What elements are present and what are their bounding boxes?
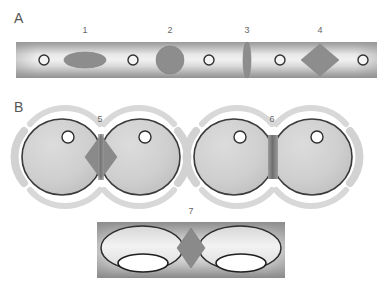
ring-4-icon bbox=[358, 55, 368, 65]
cell-pair-5: 5 bbox=[15, 108, 188, 206]
vacuole-right-5 bbox=[139, 131, 151, 143]
label-5: 5 bbox=[97, 114, 102, 124]
cell-body-right-6 bbox=[272, 119, 352, 195]
label-6: 6 bbox=[269, 114, 274, 124]
vacuole-left-6 bbox=[234, 131, 246, 143]
structure-1-shape bbox=[64, 52, 106, 68]
figure-root: A 1 2 3 4 B bbox=[0, 0, 382, 282]
panel-b: B 5 bbox=[14, 99, 359, 206]
label-3: 3 bbox=[244, 25, 249, 35]
cell-pair-6: 6 bbox=[187, 108, 360, 206]
ring-2-icon bbox=[204, 55, 214, 65]
ring-0-icon bbox=[39, 55, 49, 65]
structure-2-shape bbox=[156, 46, 184, 74]
panel-a: A 1 2 3 4 bbox=[14, 10, 377, 78]
cell-body-left-6 bbox=[194, 119, 274, 195]
panel-b-letter: B bbox=[14, 99, 23, 115]
panel-c: 7 bbox=[97, 206, 285, 278]
structure-3-shape bbox=[243, 42, 251, 78]
septum-bridge-6 bbox=[268, 135, 278, 179]
panel-c-vacuole-left bbox=[118, 254, 168, 272]
vacuole-right-6 bbox=[311, 131, 323, 143]
panel-a-letter: A bbox=[14, 10, 24, 26]
septum-core-5 bbox=[98, 134, 104, 180]
vacuole-left-5 bbox=[62, 131, 74, 143]
panel-c-vacuole-right bbox=[216, 254, 266, 272]
ring-1-icon bbox=[128, 55, 138, 65]
label-7: 7 bbox=[188, 206, 193, 216]
ring-3-icon bbox=[275, 55, 285, 65]
label-4: 4 bbox=[317, 25, 322, 35]
label-2: 2 bbox=[167, 25, 172, 35]
microscopy-schematic-figure: A 1 2 3 4 B bbox=[0, 0, 382, 282]
label-1: 1 bbox=[82, 25, 87, 35]
